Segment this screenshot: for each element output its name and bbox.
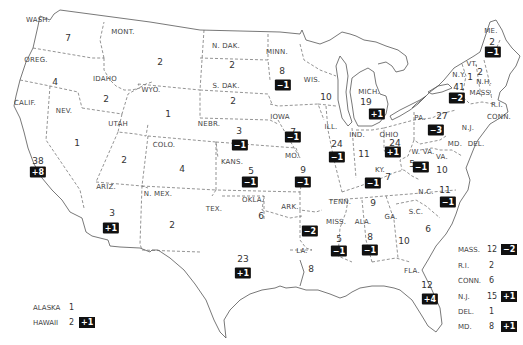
state-label-fla: FLA. xyxy=(404,267,420,275)
state-label-minn: MINN. xyxy=(266,48,288,56)
seat-count-nc: 11 xyxy=(439,185,450,195)
seat-count-miss: 5 xyxy=(336,234,342,244)
seat-count-ill: 24 xyxy=(331,139,342,149)
state-label-ga: GA. xyxy=(385,213,398,221)
seat-change-badge-tex: +1 xyxy=(235,268,251,279)
state-label-ark: ARK. xyxy=(281,203,298,211)
seat-change-badge-minn: −1 xyxy=(275,80,291,91)
legend-state-name: DEL. xyxy=(458,308,474,316)
seat-count-calif: 38 xyxy=(32,156,43,166)
state-label-va: VA. xyxy=(436,153,448,161)
state-label-wva: W. VA. xyxy=(412,148,435,156)
state-label-iowa: IOWA xyxy=(270,113,290,121)
seat-count-utah: 2 xyxy=(121,155,127,165)
legend-row-md: MD. 8 +1 xyxy=(458,323,472,331)
seat-count-ndak: 2 xyxy=(229,60,235,70)
state-label-sc: S.C. xyxy=(409,208,424,216)
state-label-ndak: N. DAK. xyxy=(212,42,240,50)
state-label-ind: IND. xyxy=(349,131,365,139)
seat-change-badge-nebr: −1 xyxy=(232,140,248,151)
seat-change-badge-mo: −1 xyxy=(295,177,311,188)
state-label-ky: KY. xyxy=(375,166,385,174)
state-label-me: ME. xyxy=(484,27,497,35)
legend-row-ri: R.I. 2 xyxy=(458,262,469,270)
seat-count-me: 2 xyxy=(489,37,495,47)
seat-count-vt: 1 xyxy=(467,72,473,82)
seat-change-badge-ohio: +1 xyxy=(385,147,401,158)
state-label-ri: R.I. xyxy=(491,101,503,109)
legend-state-name: R.I. xyxy=(458,262,469,270)
legend-row-del: DEL. 1 xyxy=(458,308,474,316)
seat-count-fla: 12 xyxy=(421,280,432,290)
seat-count-wash: 7 xyxy=(65,33,71,43)
seat-count-mich: 19 xyxy=(360,97,371,107)
legend-state-seats: 2 xyxy=(489,261,494,270)
seat-count-sdak: 2 xyxy=(230,96,236,106)
seat-count-colo: 4 xyxy=(179,164,185,174)
us-outline xyxy=(14,14,520,338)
state-label-nj: N.J. xyxy=(462,124,475,132)
seat-count-tex: 23 xyxy=(237,254,248,264)
legend-state-seats: 2 xyxy=(69,318,74,327)
legend-state-name: CONN. xyxy=(458,277,481,285)
state-label-la: LA. xyxy=(296,247,308,255)
legend-state-name: ALASKA xyxy=(33,304,60,312)
seat-count-ariz: 3 xyxy=(109,208,115,218)
seat-change-badge-ill: −1 xyxy=(329,152,345,163)
seat-change-badge-ala: −1 xyxy=(362,245,378,256)
seat-change-badge-ariz: +1 xyxy=(103,223,119,234)
seat-count-mont: 2 xyxy=(157,57,163,67)
legend-state-seats: 1 xyxy=(489,307,494,316)
seat-change-badge-ny: −2 xyxy=(449,93,465,104)
seat-count-nh: 2 xyxy=(477,67,483,77)
legend-state-seats: 12 xyxy=(487,245,497,254)
seat-change-badge-kans: −1 xyxy=(242,177,258,188)
seat-count-nmex: 2 xyxy=(169,220,175,230)
legend-state-seats: 8 xyxy=(489,322,494,331)
state-label-nev: NEV. xyxy=(56,107,73,115)
seat-count-oreg: 4 xyxy=(52,77,58,87)
seat-change-badge-wva: −1 xyxy=(413,162,429,173)
seat-count-wyo: 1 xyxy=(165,109,171,119)
seat-count-minn: 8 xyxy=(279,66,285,76)
state-label-oreg: OREG. xyxy=(24,56,47,64)
seat-count-mo: 9 xyxy=(300,165,306,175)
seat-count-wis: 10 xyxy=(320,92,331,102)
seat-count-ky: 7 xyxy=(385,172,391,182)
seat-change-badge-mich: +1 xyxy=(369,109,385,120)
state-label-mont: MONT. xyxy=(111,28,134,36)
legend-row-mass: MASS. 12 −2 xyxy=(458,246,480,254)
state-label-wis: WIS. xyxy=(304,76,320,84)
seat-change-badge-ky: −1 xyxy=(365,178,381,189)
state-label-nebr: NEBR. xyxy=(198,120,220,128)
legend-row-hawaii: HAWAII 2 +1 xyxy=(33,319,58,327)
seat-change-badge: −2 xyxy=(501,244,517,255)
state-label-tex: TEX. xyxy=(206,205,223,213)
seat-count-kans: 5 xyxy=(248,166,254,176)
state-label-kans: KANS. xyxy=(221,158,243,166)
state-label-ill: ILL. xyxy=(325,123,338,131)
state-label-wash: WASH. xyxy=(26,16,50,24)
legend-state-name: MASS. xyxy=(458,246,480,254)
state-label-mass: MASS. xyxy=(470,89,493,97)
state-label-ny: N.Y. xyxy=(452,71,465,79)
seat-change-badge-miss: −1 xyxy=(331,246,347,257)
seat-change-badge-ark: −2 xyxy=(302,226,318,237)
seat-change-badge-pa: −3 xyxy=(428,125,444,136)
seat-count-la: 8 xyxy=(308,264,314,274)
state-label-del: DEL. xyxy=(468,140,485,148)
seat-change-badge-nc: −1 xyxy=(440,197,456,208)
seat-count-tenn: 9 xyxy=(370,198,376,208)
seat-count-okla: 6 xyxy=(258,211,264,221)
state-label-wyo: WYO. xyxy=(141,86,160,94)
seat-change-badge-iowa: −1 xyxy=(285,132,301,143)
seat-count-ala: 8 xyxy=(367,232,373,242)
seat-change-badge-calif: +8 xyxy=(30,167,46,178)
state-label-mo: MO. xyxy=(285,152,299,160)
state-label-sdak: S. DAK. xyxy=(212,82,239,90)
legend-state-name: MD. xyxy=(458,323,472,331)
legend-state-name: N.J. xyxy=(458,293,470,301)
seat-count-pa: 27 xyxy=(436,111,447,121)
state-label-utah: UTAH xyxy=(108,120,128,128)
state-label-vt: VT. xyxy=(466,60,477,68)
